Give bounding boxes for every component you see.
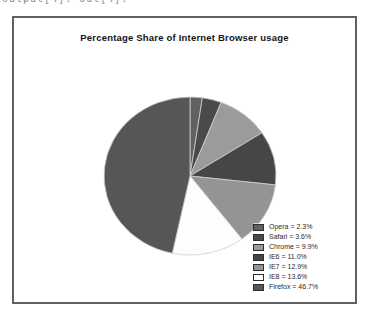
legend-label: IE6 = 11.0% (269, 253, 307, 261)
page: { "page": { "top_clipped_text": "output[… (0, 0, 372, 315)
legend-label: IE7 = 12.9% (269, 263, 307, 271)
chart-title: Percentage Share of Internet Browser usa… (14, 32, 355, 43)
legend-label: Chrome = 9.9% (269, 243, 318, 251)
legend-item-ie7: IE7 = 12.9% (253, 263, 318, 271)
clipped-code-line: output[4]: Out[4]: (2, 0, 222, 6)
legend-label: Opera = 2.3% (269, 223, 312, 231)
legend-item-opera: Opera = 2.3% (253, 223, 318, 231)
legend-swatch (253, 254, 264, 261)
legend: Opera = 2.3%Safari = 3.6%Chrome = 9.9%IE… (253, 223, 318, 291)
legend-item-chrome: Chrome = 9.9% (253, 243, 318, 251)
chart-frame: Percentage Share of Internet Browser usa… (12, 16, 357, 304)
legend-swatch (253, 234, 264, 241)
legend-item-firefox: Firefox = 46.7% (253, 283, 318, 291)
legend-item-safari: Safari = 3.6% (253, 233, 318, 241)
legend-label: Safari = 3.6% (269, 233, 311, 241)
legend-swatch (253, 224, 264, 231)
legend-swatch (253, 274, 264, 281)
legend-label: IE8 = 13.6% (269, 273, 307, 281)
legend-label: Firefox = 46.7% (269, 283, 318, 291)
pie-slice-firefox (104, 97, 190, 253)
legend-item-ie6: IE6 = 11.0% (253, 253, 318, 261)
legend-swatch (253, 284, 264, 291)
legend-item-ie8: IE8 = 13.6% (253, 273, 318, 281)
legend-swatch (253, 264, 264, 271)
clipped-code-text: output[4]: Out[4]: (2, 0, 222, 4)
legend-swatch (253, 244, 264, 251)
